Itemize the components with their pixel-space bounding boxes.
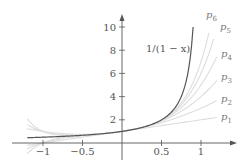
x-tick-label: −0.5 <box>70 146 94 157</box>
y-tick-label: 6 <box>110 68 116 79</box>
label-p5: p5 <box>220 21 231 35</box>
label-p6: p6 <box>206 9 217 23</box>
y-tick-label: 10 <box>103 22 116 33</box>
label-main-function: 1/(1 − x) <box>146 43 190 54</box>
label-p4: p4 <box>221 48 232 62</box>
x-tick-label: 1 <box>198 146 204 157</box>
axes <box>12 14 237 160</box>
label-p1: p1 <box>221 111 232 125</box>
y-tick-label: 4 <box>110 91 116 102</box>
label-p2: p2 <box>221 93 232 107</box>
x-axis-arrow-icon <box>230 141 237 146</box>
label-p3: p3 <box>221 71 232 85</box>
x-tick-label: −1 <box>36 146 51 157</box>
y-axis-arrow-icon <box>120 14 125 21</box>
x-tick-label: 0.5 <box>154 146 170 157</box>
chart-plot: −1−0.50.51246810 1/(1 − x)p1p2p3p4p5p6 <box>0 0 248 163</box>
y-tick-label: 2 <box>110 114 116 125</box>
y-tick-label: 8 <box>110 45 116 56</box>
